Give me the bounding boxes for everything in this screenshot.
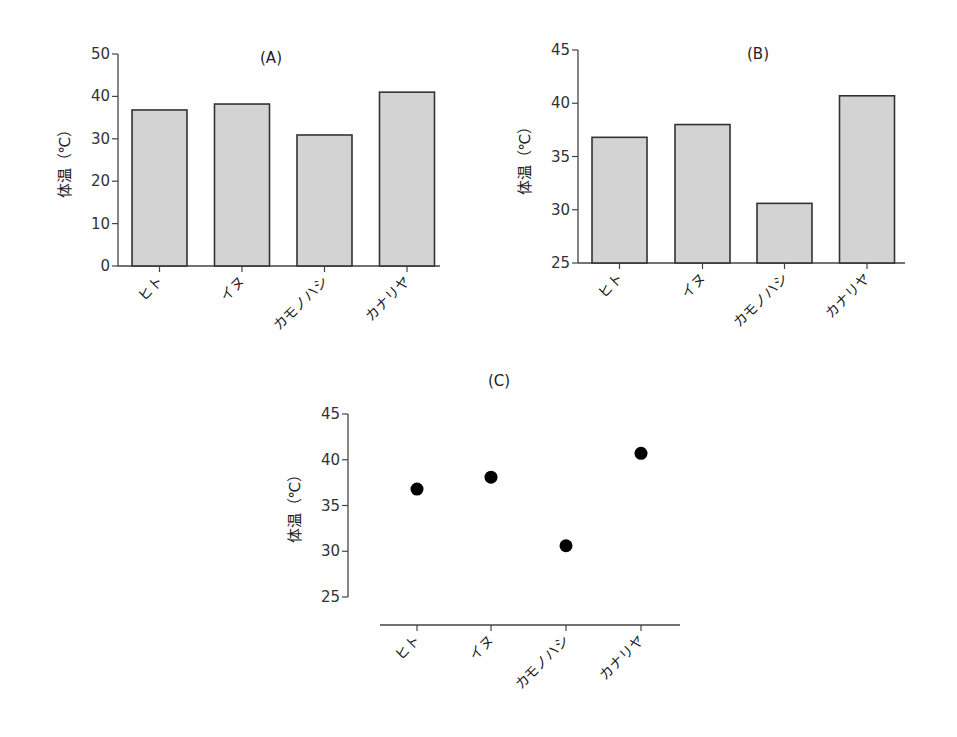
x-category-label: カモノハシ — [270, 273, 331, 334]
y-tick-label: 40 — [91, 87, 110, 105]
y-tick-label: 0 — [100, 257, 110, 275]
y-tick-label: 20 — [91, 172, 110, 190]
bar — [840, 96, 895, 263]
x-category-label: ヒト — [595, 270, 626, 301]
y-tick-label: 25 — [321, 588, 340, 606]
bar — [757, 203, 812, 263]
data-point — [411, 483, 424, 496]
y-tick-label: 40 — [321, 451, 340, 469]
bar — [380, 92, 435, 266]
x-category-label: カナリヤ — [596, 632, 647, 683]
chart-a: (A)01020304050体温（℃）ヒトイヌカモノハシカナリヤ — [56, 45, 440, 334]
x-category-label: カナリヤ — [822, 270, 873, 321]
data-point — [485, 471, 498, 484]
x-category-label: ヒト — [135, 273, 166, 304]
y-tick-label: 25 — [551, 254, 570, 272]
y-tick-label: 30 — [551, 201, 570, 219]
x-category-label: イヌ — [466, 632, 497, 663]
x-category-label: カモノハシ — [730, 270, 791, 331]
bar — [675, 125, 730, 263]
bar — [297, 135, 352, 266]
chart-title: (A) — [260, 49, 282, 67]
y-tick-label: 35 — [551, 148, 570, 166]
chart-title: (B) — [747, 45, 769, 63]
y-tick-label: 40 — [551, 94, 570, 112]
x-category-label: カナリヤ — [362, 273, 413, 324]
y-tick-label: 45 — [321, 405, 340, 423]
bar — [592, 137, 647, 263]
x-category-label: イヌ — [678, 270, 709, 301]
y-tick-label: 35 — [321, 497, 340, 515]
y-tick-label: 30 — [91, 130, 110, 148]
y-axis-label: 体温（℃） — [56, 122, 74, 199]
chart-title: (C) — [488, 372, 510, 390]
y-tick-label: 45 — [551, 41, 570, 59]
figure-canvas: (A)01020304050体温（℃）ヒトイヌカモノハシカナリヤ (B)2530… — [0, 0, 957, 737]
chart-b: (B)2530354045体温（℃）ヒトイヌカモノハシカナリヤ — [516, 41, 905, 331]
bar — [132, 110, 187, 266]
x-category-label: カモノハシ — [511, 632, 572, 693]
x-category-label: ヒト — [392, 632, 423, 663]
data-point — [635, 447, 648, 460]
y-axis-label: 体温（℃） — [516, 119, 534, 196]
chart-c: (C)2530354045体温（℃）ヒトイヌカモノハシカナリヤ — [286, 372, 680, 693]
y-axis-label: 体温（℃） — [286, 467, 304, 544]
bar — [215, 104, 270, 266]
y-tick-label: 30 — [321, 542, 340, 560]
y-tick-label: 10 — [91, 215, 110, 233]
x-category-label: イヌ — [217, 273, 248, 304]
data-point — [560, 539, 573, 552]
y-tick-label: 50 — [91, 45, 110, 63]
